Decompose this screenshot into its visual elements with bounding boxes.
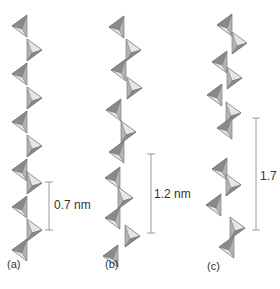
- panel-label-b: (b): [105, 258, 118, 270]
- chain-a: [12, 15, 42, 261]
- panel-label-a: (a): [7, 258, 20, 270]
- panel-label-c: (c): [207, 260, 220, 272]
- scale-bar-a: [45, 182, 53, 230]
- dimension-label-a: 0.7 nm: [53, 197, 92, 213]
- dimension-label-c: 1.7 nm: [259, 168, 280, 184]
- chain-c: [206, 14, 247, 258]
- silicate-chain-diagram: [0, 0, 280, 289]
- chain-b: [103, 16, 142, 267]
- dimension-label-b: 1.2 nm: [153, 186, 192, 202]
